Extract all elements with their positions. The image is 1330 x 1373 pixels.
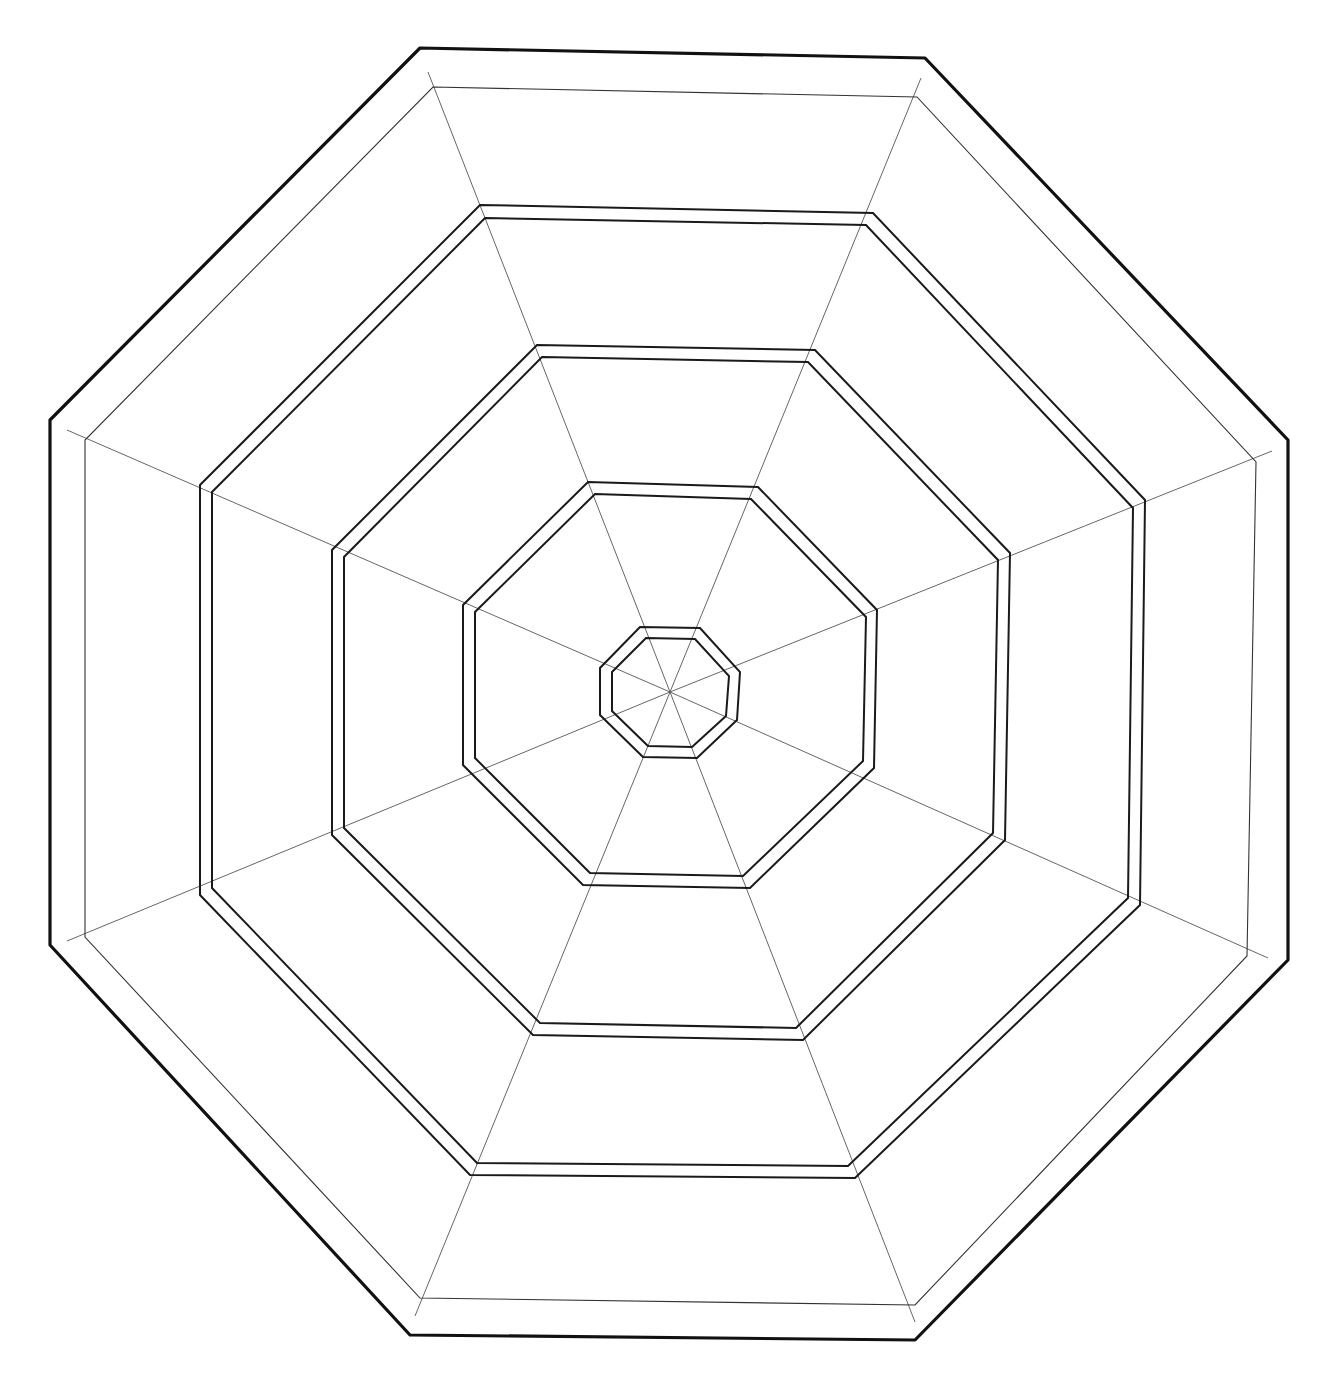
radial-spoke-8 [67,430,670,692]
radial-spoke-6 [415,692,670,1316]
radial-spoke-7 [67,692,670,941]
double-ring-3-outer-line [463,482,877,888]
radial-spoke-4 [670,692,1268,958]
radial-spoke-3 [670,451,1272,692]
radial-spoke-1 [428,72,670,692]
double-ring-3-inner-line [475,494,866,876]
radial-spoke-2 [670,78,921,692]
octagon-diagram [0,0,1330,1373]
double-ring-1-outer-line [200,205,1145,1178]
radial-spokes [67,72,1272,1322]
radial-spoke-5 [670,692,915,1322]
outer-thin-ring [85,87,1256,1305]
